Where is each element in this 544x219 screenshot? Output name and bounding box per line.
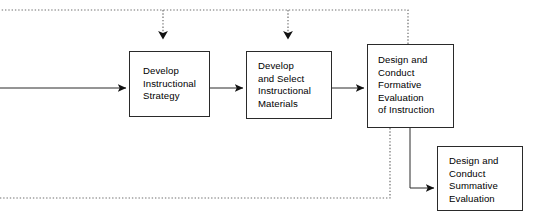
connector-revision-bus-bottom: [0, 128, 390, 198]
node-develop-instructional-strategy[interactable]: Develop Instructional Strategy: [129, 51, 210, 117]
node-label: Develop Instructional Strategy: [130, 52, 209, 103]
node-label: Develop and Select Instructional Materia…: [247, 52, 331, 110]
diagram-canvas: Develop Instructional Strategy Develop a…: [0, 0, 544, 219]
node-label: Design and Conduct Summative Evaluation: [438, 147, 522, 205]
connector-revision-bus-top: [0, 10, 408, 44]
node-label: Design and Conduct Formative Evaluation …: [368, 45, 453, 117]
node-design-and-conduct-formative-evaluation[interactable]: Design and Conduct Formative Evaluation …: [367, 44, 454, 128]
connector-formative-to-summative: [410, 128, 434, 188]
node-design-and-conduct-summative-evaluation[interactable]: Design and Conduct Summative Evaluation: [437, 146, 523, 211]
node-develop-and-select-instructional-materials[interactable]: Develop and Select Instructional Materia…: [246, 51, 332, 119]
